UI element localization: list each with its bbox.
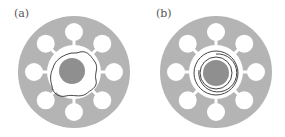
disc-diagram-a [0, 0, 142, 137]
panel-b: (b) [142, 0, 284, 137]
panel-a: (a) [0, 0, 142, 137]
disc-diagram-b [142, 0, 284, 137]
